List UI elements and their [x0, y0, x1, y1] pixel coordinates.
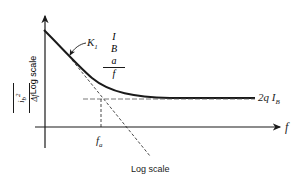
curve-formula-denominator: f: [103, 68, 125, 80]
curve-formula-numerator: IBa: [103, 31, 125, 68]
noise-spectrum-diagram: Log scale ib2 Δf K1 IBa f 2q IB f fa Log…: [0, 0, 305, 184]
curve-coefficient-label: K1: [87, 36, 98, 51]
corner-frequency-label: fa: [96, 134, 103, 149]
y-axis-quantity-label: ib2 Δf: [13, 83, 33, 113]
curve-label-leader: [70, 43, 86, 55]
y-axis-denominator: Δf: [30, 83, 39, 113]
shot-noise-label: 2q IB: [258, 91, 280, 106]
x-axis-label: f: [285, 120, 288, 135]
x-axis-scale-label: Log scale: [131, 164, 170, 174]
y-axis-numerator: ib2: [13, 83, 30, 113]
curve-formula-fraction: IBa f: [103, 31, 125, 80]
